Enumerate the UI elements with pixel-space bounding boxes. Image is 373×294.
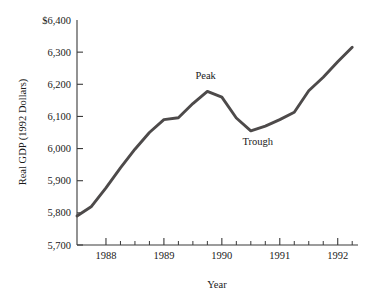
annotation-trough-label: Trough: [242, 136, 273, 147]
y-tick-label: 5,700: [47, 240, 71, 251]
y-tick-label: 6,000: [47, 143, 71, 154]
x-tick-label: 1988: [95, 250, 116, 261]
y-axis-tick-labels: $6,4006,3006,2006,1006,0005,9005,8005,70…: [42, 15, 71, 251]
x-tick-label: 1992: [327, 250, 348, 261]
chart-figure: $6,4006,3006,2006,1006,0005,9005,8005,70…: [0, 0, 373, 294]
y-tick-label: 6,300: [47, 47, 71, 58]
x-axis-ticks: [106, 238, 352, 245]
annotation-peak-label: Peak: [195, 70, 216, 81]
y-axis-title: Real GDP (1992 Dollars): [17, 78, 29, 185]
x-tick-label: 1991: [269, 250, 290, 261]
x-axis-tick-labels: 19881989199019911992: [95, 250, 348, 261]
y-tick-label: $6,400: [42, 15, 71, 26]
chart-annotations: PeakTrough: [195, 70, 273, 147]
y-tick-label: 5,900: [47, 175, 71, 186]
gdp-line-chart: $6,4006,3006,2006,1006,0005,9005,8005,70…: [0, 0, 373, 294]
y-tick-label: 6,100: [47, 111, 71, 122]
x-tick-label: 1989: [153, 250, 174, 261]
x-axis-title: Year: [207, 279, 227, 290]
y-tick-label: 5,800: [47, 207, 71, 218]
y-tick-label: 6,200: [47, 79, 71, 90]
x-tick-label: 1990: [211, 250, 232, 261]
